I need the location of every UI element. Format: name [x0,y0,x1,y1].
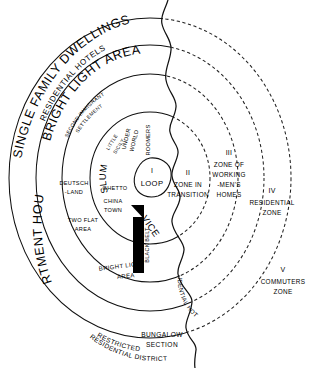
chinatown-line2: TOWN [104,207,122,213]
zone-4-numeral: IV [268,187,275,194]
zone-5-numeral: V [281,266,286,273]
zone-3-numeral: III [226,149,233,156]
zone-5-line1: COMMUTERS [261,278,306,285]
black-belt-label: BLACK BELT [144,227,150,263]
bungalow-line2: SECTION [146,341,178,348]
zone-5-line2: ZONE [274,288,293,295]
zone-3-line1: ZONE OF [214,161,245,168]
zone-5-label-group: V COMMUTERS ZONE [261,266,306,295]
loop-core-shape [134,158,171,197]
zone-4-line1: RESIDENTIAL [249,199,294,206]
under-world-group: UNDER WORLD [121,127,140,152]
slum-label: SLUM [97,163,110,195]
burgess-concentric-zone-diagram: SINGLE FAMILY DWELLINGS RESIDENTIAL HOTE… [0,0,318,368]
zone-2-numeral: II [186,169,191,176]
deutschland-line1: DEUTSCH [59,180,88,186]
diagram-canvas: SINGLE FAMILY DWELLINGS RESIDENTIAL HOTE… [0,0,318,368]
zone-3-line2: WORKING [212,171,245,178]
zone-2-line1: ZONE IN [174,181,202,188]
chinatown-line1: CHINA [104,198,123,204]
zone-3-label-group: III ZONE OF WORKING -MEN'S HOMES [212,149,245,198]
zone-4-label-group: IV RESIDENTIAL ZONE [249,187,294,216]
bright-light-bottom-line2: AREA [117,272,135,280]
zone-2-label-group: II ZONE IN TRANSITION [167,169,209,198]
two-flat-line2: AREA [75,226,91,232]
zone-3-line4: HOMES [217,191,242,198]
roomers-label: ROOMERS [145,124,151,155]
zone-4-line2: ZONE [263,209,282,216]
deutschland-line2: -LAND [65,189,83,195]
loop-numeral: I [151,167,153,174]
two-flat-line1: TWO FLAT [68,217,99,223]
bungalow-line1: BUNGALOW [141,331,183,338]
loop-label: LOOP [141,179,164,188]
zone-2-line2: TRANSITION [167,191,209,198]
zone-3-line3: -MEN'S [217,181,241,188]
